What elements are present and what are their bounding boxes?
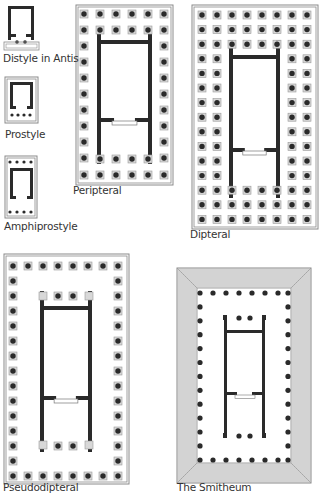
label-smitheum: The Smitheum: [177, 481, 251, 493]
label-prostyle: Prostyle: [5, 128, 45, 140]
temple-plans-diagram: [0, 0, 332, 498]
amphiprostyle-plan: [5, 156, 37, 218]
label-amphiprostyle: Amphiprostyle: [4, 220, 77, 232]
label-pseudodipteral: Pseudodipteral: [3, 481, 79, 493]
peripteral-plan: [76, 5, 173, 185]
dipteral-plan: [192, 5, 318, 229]
label-peripteral: Peripteral: [73, 184, 122, 196]
pseudodipteral-plan: [4, 254, 129, 484]
label-dipteral: Dipteral: [190, 228, 230, 240]
distyle-in-antis-plan: [4, 6, 39, 50]
smitheum-plan: [177, 268, 311, 483]
prostyle-plan: [5, 77, 38, 123]
label-distyle-in-antis: Distyle in Antis: [3, 52, 79, 64]
